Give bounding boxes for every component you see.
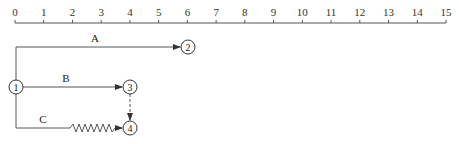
axis-tick-label: 13 bbox=[383, 6, 395, 18]
axis-tick-label: 9 bbox=[271, 6, 277, 18]
svg-text:3: 3 bbox=[128, 82, 133, 93]
node-3: 3 bbox=[123, 80, 137, 94]
axis-tick-label: 7 bbox=[213, 6, 219, 18]
node-1: 1 bbox=[9, 80, 23, 94]
activity-c: C bbox=[16, 94, 122, 132]
axis-tick-label: 10 bbox=[297, 6, 309, 18]
activity-label-c: C bbox=[39, 113, 46, 125]
activity-label-a: A bbox=[91, 32, 99, 44]
activity-b: B bbox=[23, 72, 122, 87]
axis-tick-label: 0 bbox=[12, 6, 18, 18]
axis-tick-label: 15 bbox=[441, 6, 453, 18]
axis-tick-label: 8 bbox=[242, 6, 248, 18]
axis-tick-label: 2 bbox=[70, 6, 76, 18]
network-diagram: 0123456789101112131415 A B C 1 2 3 4 bbox=[0, 0, 459, 144]
activity-label-b: B bbox=[62, 72, 69, 84]
activity-a: A bbox=[16, 32, 180, 80]
axis-tick-label: 12 bbox=[354, 6, 365, 18]
axis-tick-label: 3 bbox=[98, 6, 104, 18]
axis-tick-label: 11 bbox=[326, 6, 337, 18]
axis-tick-label: 14 bbox=[412, 6, 424, 18]
free-float-wavy-line bbox=[70, 124, 122, 132]
axis-tick-label: 6 bbox=[185, 6, 191, 18]
svg-text:2: 2 bbox=[186, 42, 191, 53]
svg-text:4: 4 bbox=[128, 123, 133, 134]
axis-tick-label: 4 bbox=[127, 6, 133, 18]
axis-ticks: 0123456789101112131415 bbox=[12, 6, 452, 23]
svg-text:1: 1 bbox=[14, 82, 19, 93]
node-2: 2 bbox=[181, 40, 195, 54]
time-scale-axis: 0123456789101112131415 bbox=[12, 6, 452, 23]
axis-tick-label: 5 bbox=[156, 6, 162, 18]
node-4: 4 bbox=[123, 121, 137, 135]
axis-tick-label: 1 bbox=[41, 6, 47, 18]
